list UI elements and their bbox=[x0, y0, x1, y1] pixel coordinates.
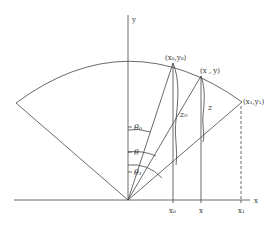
theta1-label: θ₁ bbox=[134, 168, 142, 177]
theta-arc bbox=[128, 152, 156, 157]
theta0-label: θ₀ bbox=[134, 123, 143, 132]
tick-x0-label: x₀ bbox=[169, 207, 176, 215]
point-p-label: (x , y) bbox=[200, 67, 220, 75]
ray-to-p bbox=[128, 76, 201, 200]
point-p1-label: (x₁,y₁) bbox=[243, 98, 264, 106]
theta-label: θ bbox=[134, 148, 139, 157]
sector-diagram: y x (x₀,y₀) (x , y) (x₁,y₁) θ₀ θ θ₁ z₀ z… bbox=[0, 0, 278, 239]
z0-label: z₀ bbox=[179, 110, 188, 119]
y-axis-label: y bbox=[131, 16, 136, 24]
z0-curve bbox=[173, 63, 178, 165]
tick-x1-label: x₁ bbox=[238, 207, 245, 215]
sector-left-edge bbox=[16, 103, 128, 200]
z-curve bbox=[201, 76, 204, 142]
x-axis-label: x bbox=[254, 197, 258, 205]
tick-x-label: x bbox=[199, 207, 203, 215]
z-label: z bbox=[207, 103, 213, 112]
point-p0-label: (x₀,y₀) bbox=[165, 54, 186, 62]
